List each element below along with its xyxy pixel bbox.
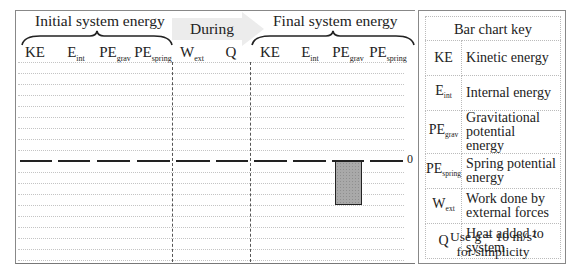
key-description: Spring potential energy	[462, 154, 561, 189]
column-label-eint_i: Eint	[67, 44, 85, 63]
column-label-pespring_f: PEspring	[369, 44, 407, 63]
key-table: KEKinetic energyEintInternal energyPEgra…	[425, 40, 561, 259]
bar-pegrav_f	[335, 161, 362, 205]
key-row: PEspringSpring potential energy	[426, 154, 561, 189]
gravity-note: Use g = 10 m/s² for simplicity	[419, 229, 567, 259]
initial-energy-title: Initial system energy	[35, 12, 165, 30]
key-row: KEKinetic energy	[426, 41, 561, 76]
key-description: Gravitational potential energy	[462, 111, 561, 154]
column-label-ke_i: KE	[25, 44, 45, 61]
key-symbol: PEgrav	[426, 111, 462, 154]
zero-line-segment	[97, 160, 130, 162]
gridline	[18, 117, 404, 118]
key-row: PEgravGravitational potential energy	[426, 111, 561, 154]
zero-line-segment	[293, 160, 326, 162]
key-symbol: Wext	[426, 189, 462, 224]
gridline	[18, 216, 404, 217]
column-label-wext: Wext	[180, 44, 204, 63]
column-label-q: Q	[226, 44, 237, 61]
zero-line-segment	[20, 160, 52, 162]
gridline	[18, 73, 404, 74]
key-symbol: PEspring	[426, 154, 462, 189]
gridline	[18, 150, 404, 151]
column-label-pegrav_i: PEgrav	[99, 44, 131, 63]
key-symbol: Eint	[426, 76, 462, 111]
column-label-ke_f: KE	[260, 44, 280, 61]
zero-axis-label: 0	[407, 152, 413, 167]
gridline	[18, 62, 404, 63]
zero-line-segment	[216, 160, 248, 162]
key-row: EintInternal energy	[426, 76, 561, 111]
during-title: During	[190, 20, 234, 38]
final-energy-title: Final system energy	[273, 12, 398, 30]
key-description: Internal energy	[462, 76, 561, 111]
zero-line-segment	[176, 160, 210, 162]
zero-line-segment	[254, 160, 287, 162]
column-label-pegrav_f: PEgrav	[332, 44, 364, 63]
key-description: Kinetic energy	[462, 41, 561, 76]
gridline	[18, 95, 404, 96]
gridline	[18, 106, 404, 107]
gridline	[18, 139, 404, 140]
gridline	[18, 238, 404, 239]
key-description: Work done by external forces	[462, 189, 561, 224]
initial-during-divider	[172, 62, 173, 262]
bar-chart-key: Bar chart key KEKinetic energyEintIntern…	[418, 10, 566, 264]
column-label-eint_f: Eint	[301, 44, 319, 63]
key-row: WextWork done by external forces	[426, 189, 561, 224]
gridline	[18, 260, 404, 261]
column-label-pespring_i: PEspring	[134, 44, 172, 63]
gridline	[18, 128, 404, 129]
gridline	[18, 84, 404, 85]
gridline	[18, 249, 404, 250]
during-final-divider	[250, 62, 251, 262]
key-title: Bar chart key	[425, 16, 561, 40]
zero-line-segment	[58, 160, 90, 162]
gridline	[18, 205, 404, 206]
zero-line-segment	[370, 160, 403, 162]
gridline	[18, 227, 404, 228]
zero-line-segment	[137, 160, 170, 162]
key-symbol: KE	[426, 41, 462, 76]
